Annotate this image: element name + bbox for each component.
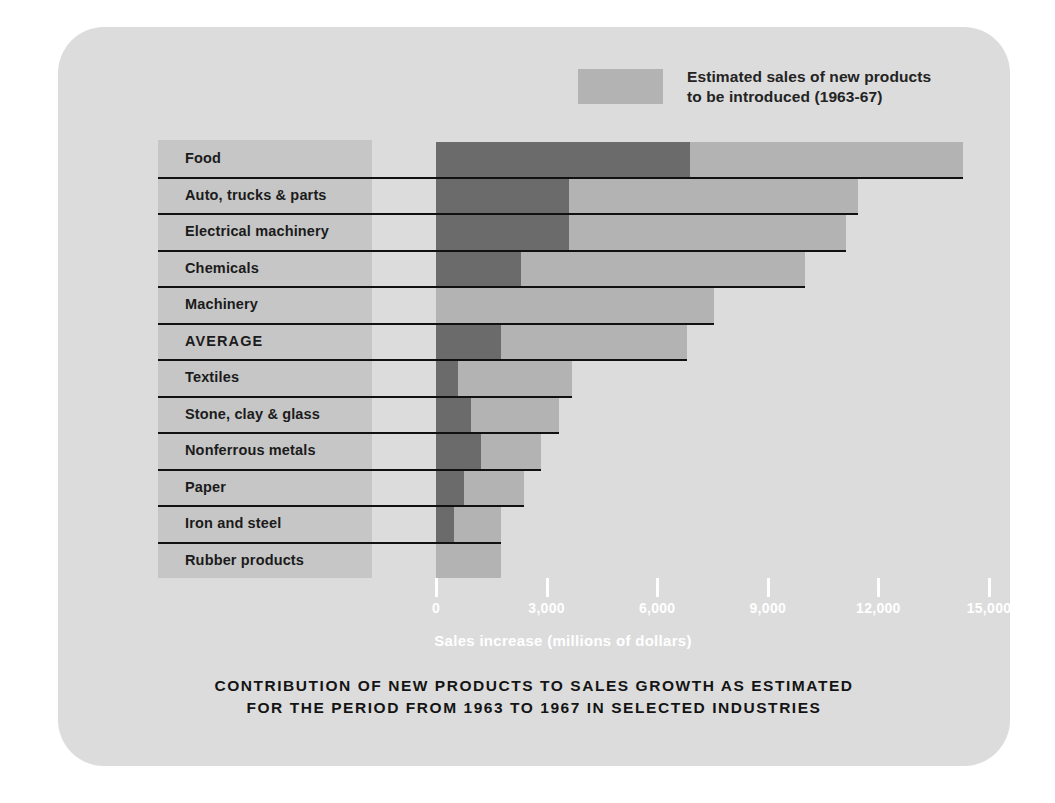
category-label-electrical-machinery: Electrical machinery [185, 213, 329, 250]
x-tick-label: 15,000 [967, 600, 1012, 616]
bar-segment-new-products [454, 507, 501, 542]
chart-row: Machinery [158, 286, 968, 323]
bar-segment-existing [436, 361, 458, 396]
bar-segment-new-products [481, 434, 541, 469]
x-tick-label: 9,000 [750, 600, 787, 616]
category-label-machinery: Machinery [185, 286, 258, 323]
bar-segment-new-products [569, 179, 858, 214]
bar-segment-new-products [690, 142, 963, 177]
category-label-food: Food [185, 140, 221, 177]
bar-segment-new-products [436, 544, 501, 579]
bar-segment-new-products [464, 471, 524, 506]
category-label-average: AVERAGE [185, 323, 263, 360]
bar-segment-new-products [458, 361, 572, 396]
chart-row: Auto, trucks & parts [158, 177, 968, 214]
x-tick [877, 578, 880, 597]
x-tick-label: 0 [432, 600, 440, 616]
chart-row: Paper [158, 469, 968, 506]
x-tick [435, 578, 438, 597]
x-axis: 03,0006,0009,00012,00015,000 [158, 578, 968, 638]
x-tick [656, 578, 659, 597]
bar-segment-existing [436, 507, 454, 542]
chart-row: Textiles [158, 359, 968, 396]
category-label-auto-trucks-parts: Auto, trucks & parts [185, 177, 327, 214]
x-tick [767, 578, 770, 597]
bar-segment-existing [436, 471, 464, 506]
plot-area: FoodAuto, trucks & partsElectrical machi… [158, 140, 968, 578]
bar-segment-existing [436, 398, 471, 433]
bar-segment-new-products [521, 252, 805, 287]
chart-row: Chemicals [158, 250, 968, 287]
category-label-nonferrous-metals: Nonferrous metals [185, 432, 316, 469]
x-axis-title: Sales increase (millions of dollars) [158, 632, 968, 649]
bar-segment-existing [436, 252, 521, 287]
chart-row: Stone, clay & glass [158, 396, 968, 433]
bar-segment-existing [436, 142, 690, 177]
category-label-paper: Paper [185, 469, 226, 506]
chart-card: Estimated sales of new products to be in… [58, 27, 1010, 766]
chart-row: Iron and steel [158, 505, 968, 542]
chart-row: Rubber products [158, 542, 968, 579]
x-tick-label: 6,000 [639, 600, 676, 616]
chart-title: CONTRIBUTION OF NEW PRODUCTS TO SALES GR… [98, 675, 970, 720]
legend: Estimated sales of new products to be in… [578, 67, 931, 108]
legend-label: Estimated sales of new products to be in… [687, 67, 931, 108]
legend-swatch-new-products [578, 69, 663, 104]
chart-row: Electrical machinery [158, 213, 968, 250]
x-tick-label: 12,000 [856, 600, 901, 616]
x-tick [546, 578, 549, 597]
bar-segment-existing [436, 179, 569, 214]
category-label-chemicals: Chemicals [185, 250, 259, 287]
category-label-iron-and-steel: Iron and steel [185, 505, 281, 542]
chart-row: Nonferrous metals [158, 432, 968, 469]
bar-segment-new-products [471, 398, 559, 433]
chart-row: Food [158, 140, 968, 177]
category-label-stone-clay-glass: Stone, clay & glass [185, 396, 320, 433]
category-label-rubber-products: Rubber products [185, 542, 304, 579]
x-tick [988, 578, 991, 597]
bar-segment-existing [436, 325, 501, 360]
bar-segment-existing [436, 434, 481, 469]
category-label-textiles: Textiles [185, 359, 239, 396]
bar-segment-new-products [436, 288, 714, 323]
bar-segment-new-products [501, 325, 687, 360]
bar-segment-new-products [569, 215, 846, 250]
chart-row: AVERAGE [158, 323, 968, 360]
bar-segment-existing [436, 215, 569, 250]
x-tick-label: 3,000 [528, 600, 565, 616]
